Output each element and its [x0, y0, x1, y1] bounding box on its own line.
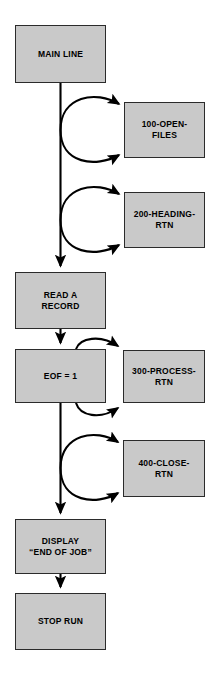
flowchart-node-process-rtn[interactable]: 300-PROCESS- RTN	[123, 350, 205, 403]
flowchart-node-stop-run[interactable]: STOP RUN	[15, 593, 106, 650]
flowchart-node-display-end-of-job[interactable]: DISPLAY “END OF JOB”	[15, 519, 106, 574]
flowchart-node-heading-rtn[interactable]: 200-HEADING- RTN	[124, 192, 205, 248]
flowchart-node-main-line[interactable]: MAIN LINE	[15, 25, 106, 83]
loop-call-close-rtn	[61, 435, 119, 500]
node-label: DISPLAY “END OF JOB”	[29, 536, 92, 557]
node-label: READ A RECORD	[41, 290, 79, 311]
node-label: STOP RUN	[38, 616, 83, 627]
node-label: MAIN LINE	[38, 49, 83, 60]
flowchart-node-open-files[interactable]: 100-OPEN- FILES	[124, 102, 205, 158]
loop-call-open-files	[61, 97, 120, 162]
node-label: EOF = 1	[44, 371, 77, 382]
node-label: 100-OPEN- FILES	[142, 119, 188, 140]
node-label: 200-HEADING- RTN	[134, 209, 195, 230]
flowchart-node-close-rtn[interactable]: 400-CLOSE- RTN	[123, 440, 205, 497]
node-label: 400-CLOSE- RTN	[138, 458, 189, 479]
flowchart-diagram: MAIN LINE 100-OPEN- FILES 200-HEADING- R…	[0, 0, 216, 674]
node-label: 300-PROCESS- RTN	[132, 366, 196, 387]
flowchart-node-eof-test[interactable]: EOF = 1	[15, 349, 106, 403]
flowchart-node-read-a-record[interactable]: READ A RECORD	[15, 272, 106, 329]
loop-call-heading-rtn	[61, 187, 120, 252]
